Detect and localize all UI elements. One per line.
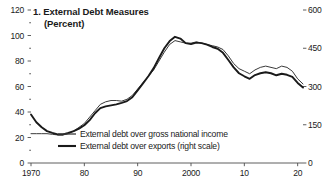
y-axis-right-tick-label: 0 bbox=[308, 158, 334, 168]
y-axis-right-tick-label: 300 bbox=[308, 82, 334, 92]
legend-swatches bbox=[58, 134, 76, 146]
x-tick-label: 90 bbox=[122, 168, 154, 178]
x-tick-label: 20 bbox=[282, 168, 314, 178]
y-axis-right-tick-label: 150 bbox=[308, 120, 334, 130]
y-axis-right-tick-label: 600 bbox=[308, 5, 334, 15]
y-axis-right-tick-label: 450 bbox=[308, 43, 334, 53]
y-axis-left-tick-label: 40 bbox=[2, 107, 24, 117]
y-axis-left-tick-label: 0 bbox=[2, 158, 24, 168]
y-axis-left-tick-label: 120 bbox=[2, 5, 24, 15]
y-axis-left-tick-label: 60 bbox=[2, 82, 24, 92]
data-series bbox=[31, 37, 303, 135]
x-tick-label: 80 bbox=[68, 168, 100, 178]
chart-figure: 1. External Debt Measures (Percent) 1970… bbox=[0, 0, 335, 192]
y-axis-left-tick-label: 80 bbox=[2, 56, 24, 66]
legend-item-label: External debt over gross national income bbox=[80, 129, 228, 139]
x-tick-label: 10 bbox=[228, 168, 260, 178]
legend-item-label: External debt over exports (right scale) bbox=[80, 141, 220, 151]
y-axis-left-tick-label: 100 bbox=[2, 31, 24, 41]
x-tick-label: 2000 bbox=[175, 168, 207, 178]
plot-area bbox=[0, 0, 335, 192]
x-tick-label: 1970 bbox=[15, 168, 47, 178]
y-axis-left-tick-label: 20 bbox=[2, 133, 24, 143]
